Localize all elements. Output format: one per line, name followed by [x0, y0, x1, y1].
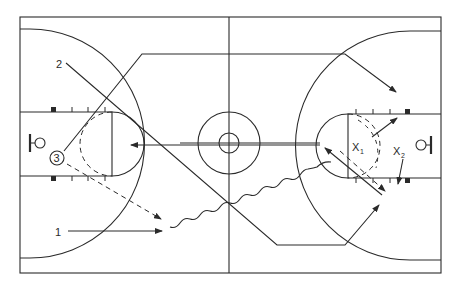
right-lane-block-bottom [405, 178, 410, 183]
defender-x1-sub: 1 [360, 148, 364, 155]
x1-dashed-drop [340, 151, 385, 191]
left-lane [20, 112, 112, 176]
defender-x2-sub: 2 [401, 152, 405, 159]
player-3-label: 3 [54, 152, 60, 164]
left-free-throw-arc [112, 112, 144, 176]
right-elbow-arrow [325, 148, 382, 195]
basketball-court-diagram: 1 2 3 X 1 X 2 [0, 0, 455, 285]
left-three-point-line [20, 29, 145, 258]
left-lane-block-bottom [51, 176, 56, 181]
player-3-cut-path [64, 54, 396, 151]
defender-x1-label: X [352, 141, 360, 153]
player-1-label: 1 [55, 226, 61, 238]
defender-x2-label: X [393, 145, 401, 157]
left-free-throw-arc-dashed [80, 112, 112, 176]
right-basket-icon [416, 140, 426, 150]
x1-move-arrow [372, 118, 397, 137]
player-2-label: 2 [56, 58, 62, 70]
pass-3-to-1-dashed [67, 164, 161, 219]
x2-move-arrow [398, 159, 403, 184]
right-free-throw-arc [316, 114, 348, 178]
left-lane-block-top [51, 107, 56, 112]
x1-zone-dashed [358, 120, 378, 168]
left-basket-icon [35, 138, 45, 148]
right-lane-block-top [405, 109, 410, 114]
